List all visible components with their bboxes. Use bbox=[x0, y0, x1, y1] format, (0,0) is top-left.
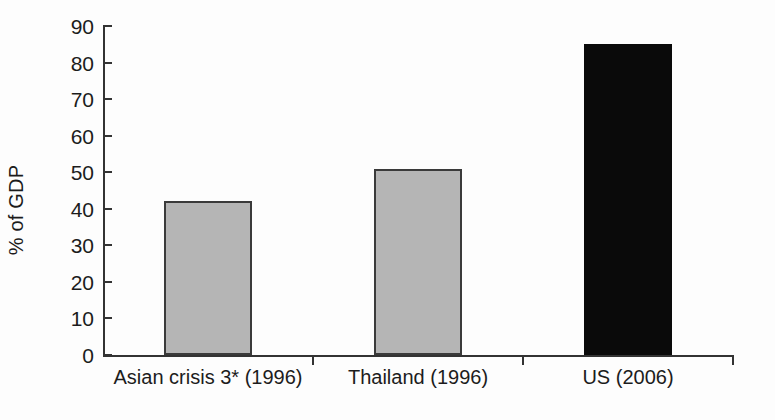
bar bbox=[584, 44, 672, 355]
x-tick-mark bbox=[312, 355, 314, 365]
y-tick-label: 20 bbox=[71, 271, 94, 292]
y-tick-mark bbox=[103, 354, 112, 356]
y-tick-mark bbox=[103, 25, 112, 27]
y-tick-mark bbox=[103, 317, 112, 319]
y-tick-label: 80 bbox=[71, 52, 94, 73]
y-tick-mark bbox=[103, 135, 112, 137]
y-tick-mark bbox=[103, 281, 112, 283]
plot-area: 0102030405060708090 bbox=[103, 26, 733, 355]
y-axis-line bbox=[103, 26, 105, 355]
y-tick-label: 40 bbox=[71, 198, 94, 219]
y-tick: 40 bbox=[103, 208, 112, 210]
y-tick: 20 bbox=[103, 281, 112, 283]
chart-figure: % of GDP 0102030405060708090 Asian crisi… bbox=[0, 0, 775, 420]
y-tick: 80 bbox=[103, 62, 112, 64]
y-tick-label: 90 bbox=[71, 16, 94, 37]
y-axis-title-text: % of GDP bbox=[5, 165, 28, 256]
y-tick-label: 0 bbox=[82, 345, 94, 366]
y-tick-mark bbox=[103, 208, 112, 210]
y-tick: 0 bbox=[103, 354, 112, 356]
y-tick: 50 bbox=[103, 171, 112, 173]
y-tick-label: 10 bbox=[71, 308, 94, 329]
x-axis-line bbox=[103, 355, 733, 357]
y-axis-title: % of GDP bbox=[14, 0, 54, 420]
y-tick-label: 30 bbox=[71, 235, 94, 256]
y-tick-label: 50 bbox=[71, 162, 94, 183]
category-label: US (2006) bbox=[582, 366, 673, 388]
y-tick-label: 70 bbox=[71, 89, 94, 110]
x-tick-mark bbox=[522, 355, 524, 365]
y-tick-mark bbox=[103, 171, 112, 173]
bar bbox=[374, 169, 462, 355]
y-tick: 70 bbox=[103, 98, 112, 100]
y-tick-mark bbox=[103, 244, 112, 246]
x-tick-mark bbox=[732, 355, 734, 365]
y-tick: 30 bbox=[103, 244, 112, 246]
y-tick-label: 60 bbox=[71, 125, 94, 146]
y-tick-mark bbox=[103, 98, 112, 100]
category-label: Asian crisis 3* (1996) bbox=[114, 366, 303, 388]
y-tick: 90 bbox=[103, 25, 112, 27]
y-tick: 10 bbox=[103, 317, 112, 319]
bar bbox=[164, 201, 252, 355]
category-label: Thailand (1996) bbox=[348, 366, 488, 388]
y-tick-mark bbox=[103, 62, 112, 64]
y-tick: 60 bbox=[103, 135, 112, 137]
